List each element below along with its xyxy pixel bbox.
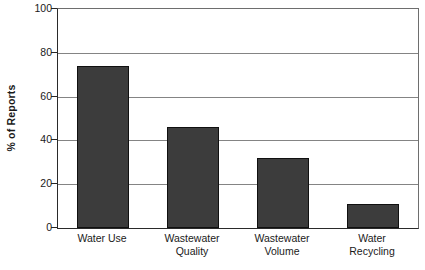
bar	[77, 66, 129, 228]
x-axis-category-label-line1: Wastewater	[164, 232, 219, 244]
x-axis-category-label: WaterRecycling	[327, 232, 417, 258]
y-axis-tick-label: 0	[22, 222, 52, 232]
plot-area	[57, 8, 419, 229]
x-axis-category-label-line1: Water	[358, 232, 386, 244]
y-axis-title: % of Reports	[0, 0, 22, 235]
y-axis-tick-label: 20	[22, 178, 52, 188]
x-axis-category-label-line2: Volume	[237, 245, 327, 258]
x-axis-category-labels: Water UseWastewaterQualityWastewaterVolu…	[57, 232, 417, 270]
x-axis-category-label-line1: Water Use	[77, 232, 126, 244]
x-axis-category-label-line2: Quality	[147, 245, 237, 258]
bar	[257, 158, 309, 228]
x-axis-category-label-line1: Wastewater	[254, 232, 309, 244]
bars-layer	[58, 9, 418, 228]
x-axis-category-label: WastewaterQuality	[147, 232, 237, 258]
y-axis-tick-label: 60	[22, 91, 52, 101]
y-axis-tick-label: 100	[22, 3, 52, 13]
bar	[347, 204, 399, 228]
bar	[167, 127, 219, 228]
x-axis-category-label: Water Use	[57, 232, 147, 245]
x-axis-category-label-line2: Recycling	[327, 245, 417, 258]
y-axis-title-label: % of Reports	[5, 84, 17, 151]
y-axis-tick-label: 40	[22, 134, 52, 144]
bar-chart-figure: % of Reports 020406080100 Water UseWaste…	[0, 0, 425, 270]
y-axis-tick-labels: 020406080100	[22, 0, 52, 235]
x-axis-category-label: WastewaterVolume	[237, 232, 327, 258]
y-axis-tick-label: 80	[22, 47, 52, 57]
